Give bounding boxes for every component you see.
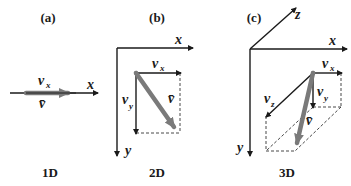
x-axis-label: x <box>174 32 182 47</box>
vector-v-label: v̄ <box>168 91 175 106</box>
panel-1d: (a) x v x v̄ 1D <box>10 10 98 180</box>
vx-subscript: x <box>159 63 165 73</box>
x-axis-label: x <box>328 33 336 48</box>
vz-label: v <box>264 91 271 106</box>
panel-label-a: (a) <box>40 10 55 25</box>
caption-2d: 2D <box>149 165 165 180</box>
vy-subscript: y <box>323 93 329 103</box>
y-axis-label: y <box>235 140 244 155</box>
vx-label: v <box>38 73 45 88</box>
caption-1d: 1D <box>42 165 58 180</box>
vx-label: v <box>152 56 159 71</box>
vz-subscript: z <box>270 99 275 109</box>
caption-3d: 3D <box>279 165 295 180</box>
vector-origin-dot <box>134 71 138 75</box>
velocity-components-diagram: (a) x v x v̄ 1D (b) x y v x v y v̄ 2D (c… <box>0 0 351 186</box>
vy-label: v <box>122 92 129 107</box>
panel-label-b: (b) <box>149 10 165 25</box>
vx-subscript: x <box>329 63 335 73</box>
panel-3d: (c) z x y v x v y v z v̄ 3D <box>235 7 347 180</box>
vy-label: v <box>317 84 324 99</box>
x-axis-label: x <box>86 77 94 92</box>
y-axis-label: y <box>123 143 132 158</box>
vector-v-label: v̄ <box>306 113 313 128</box>
velocity-vector-arrow <box>297 73 313 143</box>
vector-origin-dot <box>311 71 315 75</box>
vector-v-label: v̄ <box>39 96 46 111</box>
vx-subscript: x <box>45 80 51 90</box>
panel-label-c: (c) <box>247 10 261 25</box>
vx-label: v <box>322 56 329 71</box>
vy-subscript: y <box>128 101 134 111</box>
panel-2d: (b) x y v x v y v̄ 2D <box>117 10 193 180</box>
z-axis-label: z <box>294 7 301 22</box>
